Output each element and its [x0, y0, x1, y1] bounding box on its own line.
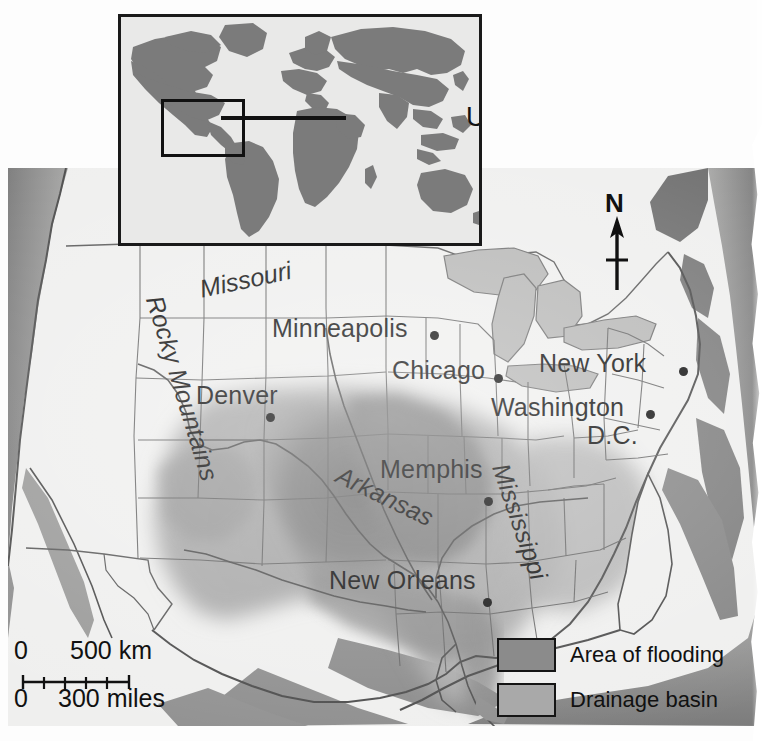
scale-miles-zero: 0 — [14, 684, 28, 713]
city-dot-washington — [646, 410, 655, 419]
scale-miles-value: 300 miles — [58, 684, 165, 713]
city-label-chicago: Chicago — [392, 356, 485, 385]
inset-world-map: USA — [118, 14, 482, 246]
legend-item-drainage-basin: Drainage basin — [497, 683, 718, 717]
city-dot-new-york — [679, 367, 688, 376]
map-page: Missouri Arkansas Mississippi Rocky Moun… — [0, 0, 778, 741]
city-label-denver: Denver — [196, 381, 278, 410]
legend-swatch-drainage-basin — [497, 683, 556, 717]
legend-label-drainage-basin: Drainage basin — [570, 687, 718, 713]
scale-km-zero: 0 — [14, 636, 28, 665]
city-label-minneapolis: Minneapolis — [272, 314, 408, 343]
legend-swatch-area-of-flooding — [497, 638, 556, 672]
scale-km-value: 500 km — [70, 636, 152, 665]
inset-label-usa: USA — [466, 102, 482, 133]
map-legend: Area of flooding Drainage basin — [497, 638, 767, 722]
north-arrow: N — [597, 190, 637, 300]
city-dot-memphis — [484, 497, 493, 506]
city-label-new-york: New York — [539, 349, 646, 378]
legend-label-area-of-flooding: Area of flooding — [570, 642, 724, 668]
legend-item-area-of-flooding: Area of flooding — [497, 638, 724, 672]
city-dot-chicago — [494, 374, 503, 383]
scale-bar: 0 500 km 0 300 miles — [14, 636, 214, 720]
city-label-washington: Washington — [491, 393, 624, 422]
city-label-memphis: Memphis — [380, 455, 483, 484]
inset-locator-box — [161, 99, 245, 157]
inset-leader-line — [221, 116, 346, 120]
city-dot-denver — [266, 413, 275, 422]
north-label: N — [605, 188, 624, 219]
city-label-dc: D.C. — [587, 421, 638, 450]
city-dot-new-orleans — [483, 598, 492, 607]
city-dot-minneapolis — [430, 331, 439, 340]
city-label-new-orleans: New Orleans — [329, 566, 476, 595]
